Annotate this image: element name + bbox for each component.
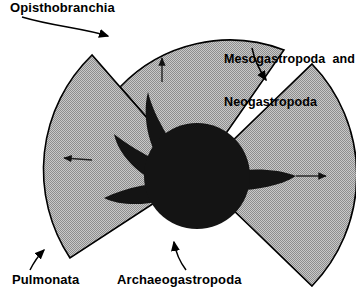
diagram-canvas: Opisthobranchia Mesogastropoda and Neoga… bbox=[0, 0, 356, 294]
label-mesogastropoda-neogastropoda: Mesogastropoda and Neogastropoda bbox=[224, 23, 355, 138]
label-mesogastropoda-line1: Mesogastropoda and bbox=[224, 52, 355, 66]
core-disc bbox=[144, 123, 250, 229]
label-archaeogastropoda: Archaeogastropoda bbox=[117, 273, 242, 288]
leader-pulmonata bbox=[30, 250, 44, 270]
label-opisthobranchia: Opisthobranchia bbox=[10, 1, 115, 16]
label-neogastropoda-line2: Neogastropoda bbox=[224, 95, 355, 109]
leader-archaeogastropoda bbox=[174, 242, 186, 270]
leader-opisthobranchia bbox=[22, 17, 108, 36]
label-pulmonata: Pulmonata bbox=[12, 273, 79, 288]
